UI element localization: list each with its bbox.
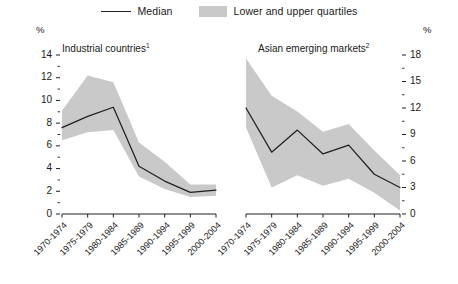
quartile-band-left [62,75,216,197]
y-axis-label-left-8: 8 [22,117,52,128]
y-axis-label-right-12: 12 [410,102,440,113]
y-axis-label-right-18: 18 [410,49,440,60]
y-axis-label-left-10: 10 [22,94,52,105]
chart-figure: Median Lower and upper quartiles % % Ind… [0,0,458,284]
y-axis-label-left-14: 14 [22,49,52,60]
y-axis-label-left-0: 0 [22,208,52,219]
y-axis-label-right-15: 15 [410,75,440,86]
y-axis-label-right-3: 3 [410,181,440,192]
y-axis-label-right-0: 0 [410,208,440,219]
y-axis-label-right-9: 9 [410,128,440,139]
y-axis-label-left-12: 12 [22,71,52,82]
quartile-band-right [246,59,400,211]
y-axis-label-left-6: 6 [22,139,52,150]
y-axis-label-left-2: 2 [22,185,52,196]
y-axis-label-left-4: 4 [22,162,52,173]
y-axis-label-right-6: 6 [410,155,440,166]
